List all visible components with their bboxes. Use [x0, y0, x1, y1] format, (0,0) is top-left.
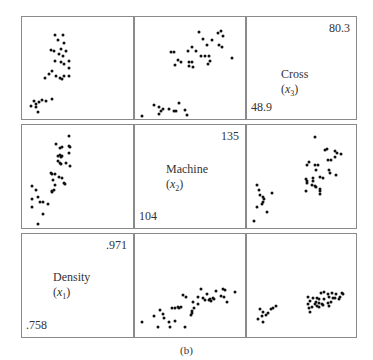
data-point [54, 183, 57, 186]
diagonal-panel-machine: 135 Machine (x2) 104 [134, 124, 246, 229]
data-point [197, 31, 200, 34]
data-point [60, 145, 63, 148]
data-point [172, 50, 175, 53]
data-point [265, 210, 268, 213]
data-point [63, 62, 66, 65]
data-point [208, 59, 211, 62]
data-point [191, 45, 194, 48]
data-point [29, 104, 32, 107]
scatter-panel-r3c2 [134, 233, 246, 338]
data-point [191, 60, 194, 63]
data-point [319, 193, 322, 196]
data-point [226, 300, 229, 303]
data-point [305, 181, 308, 184]
scatter-panel-r1c2 [134, 16, 246, 120]
data-point [314, 169, 317, 172]
data-point [59, 47, 62, 50]
data-point [30, 198, 33, 201]
data-point [305, 164, 308, 167]
data-point [54, 59, 57, 62]
data-point [222, 35, 225, 38]
data-point [220, 45, 223, 48]
data-point [62, 34, 65, 37]
data-point [334, 155, 337, 158]
data-point [67, 151, 70, 154]
data-point [140, 320, 143, 323]
data-point [230, 56, 233, 59]
data-point [40, 98, 43, 101]
data-point [322, 304, 325, 307]
data-point [30, 206, 33, 209]
data-point [275, 305, 278, 308]
scatter-panel-r2c3 [246, 124, 357, 229]
data-point [53, 49, 56, 52]
diagonal-panel-cross: 80.3 Cross (x3) 48.9 [246, 16, 357, 120]
data-point [322, 176, 325, 179]
data-point [152, 315, 155, 318]
data-point [183, 108, 186, 111]
density-name: Density [53, 270, 90, 285]
data-point [309, 299, 312, 302]
data-point [209, 299, 212, 302]
cross-symbol: (x3) [281, 82, 308, 101]
data-point [261, 203, 264, 206]
data-point [324, 148, 327, 151]
data-point [57, 52, 60, 55]
cross-max-value: 80.3 [329, 21, 350, 36]
data-point [35, 105, 38, 108]
data-point [185, 113, 188, 116]
data-point [200, 54, 203, 57]
data-point [46, 203, 49, 206]
data-point [67, 75, 70, 78]
data-point [60, 176, 63, 179]
density-min-value: .758 [26, 318, 47, 333]
data-point [272, 307, 275, 310]
data-point [261, 315, 264, 318]
data-point [52, 178, 55, 181]
data-point [152, 103, 155, 106]
data-point [194, 49, 197, 52]
data-point [63, 41, 66, 44]
data-point [196, 303, 199, 306]
data-point [313, 136, 316, 139]
data-point [161, 313, 164, 316]
data-point [159, 309, 162, 312]
data-point [186, 49, 189, 52]
data-point [50, 70, 53, 73]
data-point [50, 190, 53, 193]
data-point [35, 188, 38, 191]
data-point [37, 100, 40, 103]
data-point [335, 174, 338, 177]
data-point [180, 60, 183, 63]
data-point [341, 292, 344, 295]
data-point [168, 107, 171, 110]
data-point [255, 206, 258, 209]
machine-name: Machine [166, 162, 208, 177]
data-point [202, 38, 205, 41]
data-point [67, 135, 70, 138]
density-max-value: .971 [106, 238, 127, 253]
data-point [234, 290, 237, 293]
diagonal-panel-density: .971 Density (x1) .758 [21, 233, 134, 338]
data-point [219, 30, 222, 33]
data-point [36, 222, 39, 225]
data-point [211, 39, 214, 42]
data-point [271, 191, 274, 194]
data-point [193, 307, 196, 310]
data-point [173, 319, 176, 322]
data-point [67, 59, 70, 62]
data-point [47, 73, 50, 76]
data-point [317, 306, 320, 309]
data-point [168, 320, 171, 323]
data-point [196, 295, 199, 298]
data-point [173, 63, 176, 66]
data-point [339, 152, 342, 155]
data-point [63, 75, 66, 78]
data-point [36, 110, 39, 113]
data-point [192, 65, 195, 68]
data-point [309, 311, 312, 314]
data-point [335, 292, 338, 295]
data-point [192, 300, 195, 303]
data-point [337, 297, 340, 300]
data-point [329, 300, 332, 303]
